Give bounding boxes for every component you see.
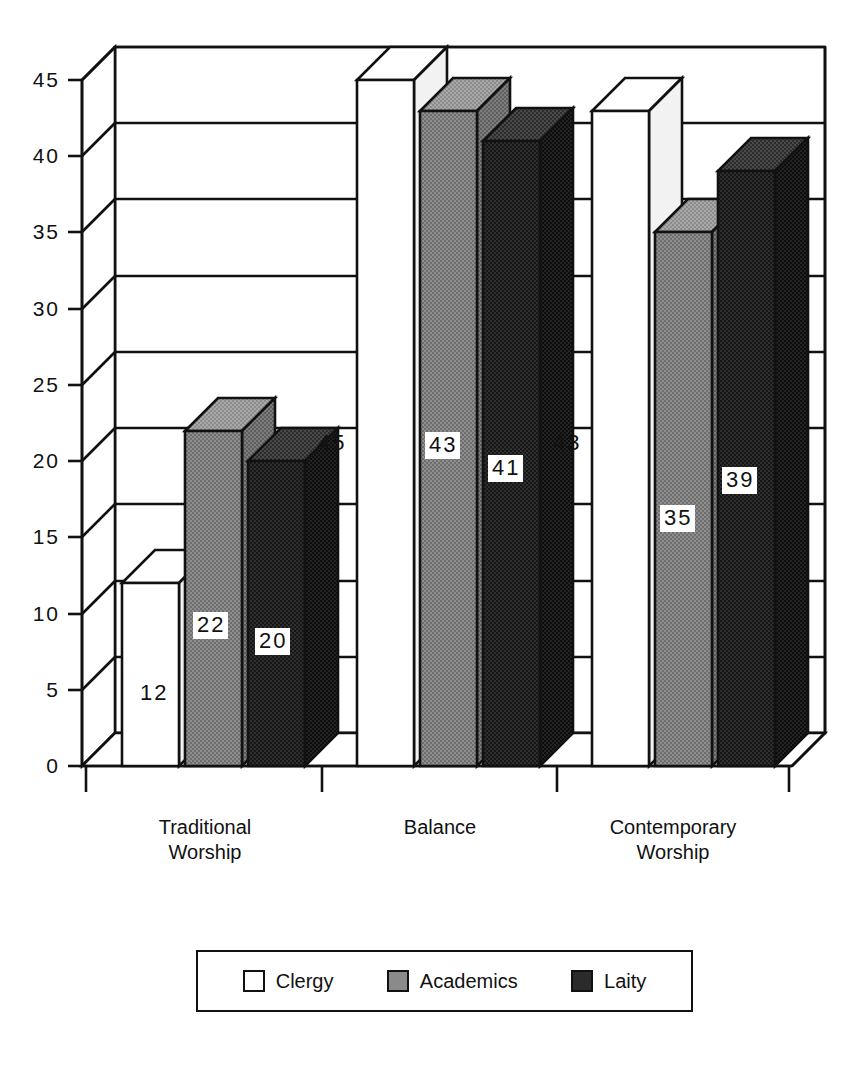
y-tick-label-35: 35 (0, 221, 60, 242)
y-tick-label-40: 40 (0, 145, 60, 166)
value-label-traditional-laity: 20 (255, 628, 290, 655)
value-label-contemporary-academics: 35 (660, 505, 695, 532)
value-label-traditional-academics: 22 (193, 612, 228, 639)
legend-label-academics: Academics (420, 970, 518, 993)
legend-item-clergy: Clergy (243, 970, 334, 993)
x-category-line-2: Worship (558, 840, 788, 865)
bar-traditional-laity (248, 428, 338, 766)
legend-swatch-laity-icon (571, 970, 593, 992)
x-category-line-2: Worship (90, 840, 320, 865)
y-tick-label-45: 45 (0, 69, 60, 90)
x-category-line-1: Contemporary (558, 815, 788, 840)
y-tick-label-10: 10 (0, 603, 60, 624)
legend-label-clergy: Clergy (276, 970, 334, 993)
value-label-balance-academics: 43 (425, 432, 460, 459)
value-label-contemporary-laity: 39 (722, 467, 757, 494)
value-label-traditional-clergy: 12 (140, 682, 168, 704)
value-label-balance-laity: 41 (488, 455, 523, 482)
plot-left-wall (82, 47, 115, 766)
y-tick-label-15: 15 (0, 526, 60, 547)
legend-swatch-academics-icon (387, 970, 409, 992)
legend-label-laity: Laity (604, 970, 646, 993)
y-tick-label-25: 25 (0, 374, 60, 395)
x-axis-line (82, 766, 792, 792)
bar-contemporary-laity (718, 138, 808, 766)
x-category-label-contemporary: Contemporary Worship (558, 815, 788, 865)
x-category-line-1: Traditional (90, 815, 320, 840)
x-category-label-traditional: Traditional Worship (90, 815, 320, 865)
chart-legend: Clergy Academics Laity (196, 950, 693, 1012)
y-tick-label-30: 30 (0, 298, 60, 319)
x-category-label-balance: Balance (325, 815, 555, 840)
chart-figure: 45 40 35 30 25 20 15 10 5 0 12 22 20 45 … (0, 0, 855, 1082)
value-label-balance-clergy: 45 (318, 432, 346, 454)
x-category-line-1: Balance (325, 815, 555, 840)
legend-swatch-clergy-icon (243, 970, 265, 992)
legend-item-laity: Laity (571, 970, 646, 993)
legend-item-academics: Academics (387, 970, 518, 993)
y-axis-ticks (68, 80, 82, 766)
y-tick-label-5: 5 (0, 679, 60, 700)
y-tick-label-0: 0 (0, 755, 60, 776)
y-tick-label-20: 20 (0, 450, 60, 471)
value-label-contemporary-clergy: 43 (553, 432, 581, 454)
